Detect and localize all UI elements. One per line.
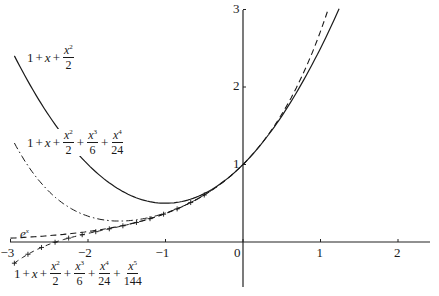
y-tick-label: 2 [233, 78, 240, 94]
fraction-x2-over-2: x2 2 [63, 44, 74, 71]
series-quintic-markers [12, 192, 207, 265]
label-quintic: 1 + x + x22 + x36 + x424 + x5144 [14, 260, 143, 287]
x-tick-label: −1 [156, 245, 170, 261]
x-tick-label: 0 [234, 245, 241, 261]
series-quadratic-curve [14, 9, 339, 203]
label-lead: 1 [27, 51, 34, 64]
y-tick-label: 3 [233, 1, 240, 17]
x-tick-label: 2 [394, 245, 401, 261]
label-exp: ex [20, 226, 29, 242]
label-quartic: 1 + x + x22 + x36 + x424 [27, 129, 124, 156]
x-tick-label: −3 [1, 245, 15, 261]
label-quadratic: 1 + x + x2 2 [27, 44, 75, 71]
y-tick-label: 1 [233, 156, 240, 172]
x-tick-label: 1 [317, 245, 324, 261]
